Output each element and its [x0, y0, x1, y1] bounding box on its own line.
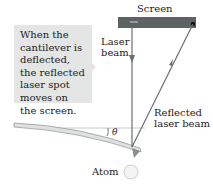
screen-bar — [118, 17, 196, 28]
callout-pointer — [92, 63, 96, 71]
atom-circle — [124, 165, 138, 179]
callout-box: When the cantilever is deflected, the re… — [14, 25, 92, 103]
theta-label: θ — [112, 127, 117, 138]
incident-arrowhead — [129, 55, 135, 63]
reflected-label-2: laser beam — [154, 118, 210, 129]
angle-arc — [107, 128, 108, 136]
laser-beam-label-1: Laser — [101, 36, 129, 47]
laser-beam-label-2: beam — [101, 47, 129, 58]
reflected-label-1: Reflected — [154, 107, 202, 118]
atom-label: Atom — [92, 166, 119, 177]
screen-label: Screen — [137, 3, 173, 14]
cantilever — [14, 123, 141, 152]
